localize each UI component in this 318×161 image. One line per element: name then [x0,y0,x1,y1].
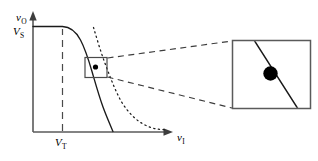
x-axis-arrowhead [164,128,174,135]
x-axis-tick-sub: T [62,142,67,151]
y-axis-tick-var: V [13,25,20,37]
x-axis-tick-var: V [55,136,62,148]
switching-point-marker [93,64,98,69]
magnifier-connector-lower [108,77,233,108]
y-axis-tick-sub: S [20,31,24,40]
y-axis-arrowhead [29,11,36,21]
vtc-plot-canvas [0,0,318,161]
magnifier-connector-upper [108,41,233,58]
inset-panel [233,40,311,112]
magnifier-connector-group [108,41,233,108]
y-axis-tick-label: VS [13,22,24,38]
axis-group [29,11,173,136]
x-axis-tick-label: VT [55,133,66,149]
x-axis-label-sub: I [182,137,185,146]
vtc-figure: vO VS VT vI [0,0,318,161]
inset-switching-point-marker [263,66,277,80]
vtc-solid-curve [33,27,113,132]
x-axis-label: vI [177,128,184,144]
vtc-dotted-curve [94,28,166,130]
